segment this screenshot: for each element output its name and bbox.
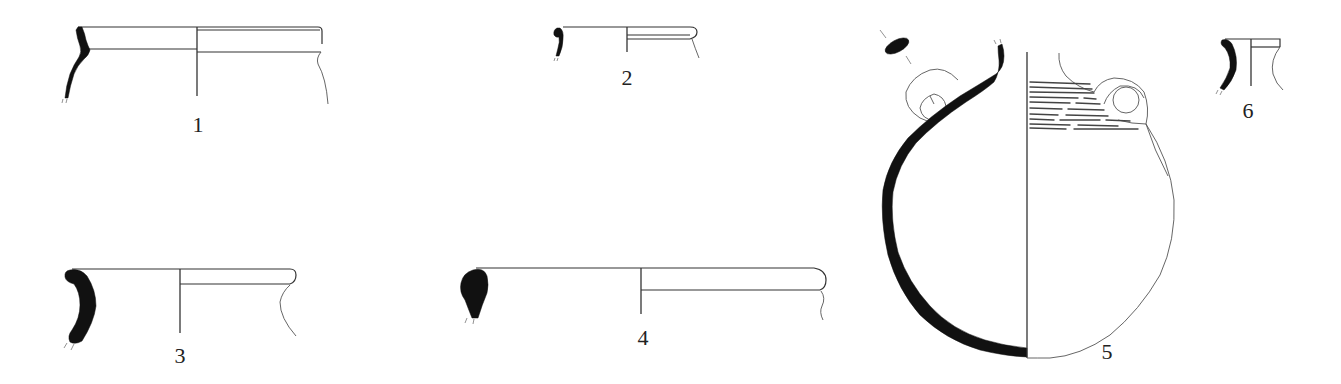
figure-2-drawing (554, 27, 699, 61)
figure-label-1: 1 (193, 114, 204, 136)
figure-5-drawing (880, 30, 1174, 358)
figure-1-drawing (62, 27, 328, 104)
figure-label-3: 3 (175, 345, 186, 367)
incised-decoration (1030, 82, 1138, 129)
figure-label-6: 6 (1243, 100, 1254, 122)
figure-6-drawing (1216, 39, 1283, 95)
figure-label-4: 4 (638, 327, 649, 349)
figure-3-drawing (64, 269, 296, 350)
pottery-plate: 1 2 3 4 5 6 (0, 0, 1341, 384)
figure-label-2: 2 (622, 67, 633, 89)
figure-4-drawing (461, 268, 827, 324)
figure-label-5: 5 (1102, 341, 1113, 363)
